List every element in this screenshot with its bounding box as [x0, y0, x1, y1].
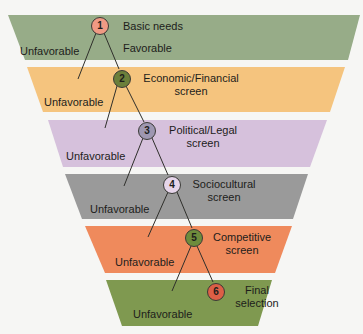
stage-5-label-line1: Competitive	[207, 231, 277, 244]
stage-2-node: 2	[113, 70, 131, 88]
stage-3-unfavorable-label: Unfavorable	[66, 150, 125, 163]
stage-6-label-line1: Final	[232, 284, 282, 297]
stage-1-favorable-label: Favorable	[123, 42, 172, 55]
stage-2-unfavorable-label: Unfavorable	[44, 96, 103, 109]
stage-3-label-line2: screen	[163, 137, 243, 150]
stage-1-node: 1	[91, 17, 109, 35]
stage-6-label: Final selection	[232, 284, 282, 310]
stage-4-node: 4	[163, 176, 181, 194]
stage-1-label: Basic needs	[123, 20, 183, 33]
stage-3-node: 3	[138, 122, 156, 140]
stage-6-node: 6	[207, 283, 225, 301]
stage-4-label-line2: screen	[184, 191, 264, 204]
stage-5-label: Competitive screen	[207, 231, 277, 257]
stage-2-label-line2: screen	[141, 85, 241, 98]
stage-6-label-line2: selection	[232, 297, 282, 310]
stage-3-label-line1: Political/Legal	[163, 124, 243, 137]
stage-6-unfavorable-label: Unfavorable	[133, 308, 192, 321]
stage-4-label: Sociocultural screen	[184, 178, 264, 204]
stage-4-unfavorable-label: Unfavorable	[90, 203, 149, 216]
stage-4-label-line1: Sociocultural	[184, 178, 264, 191]
stage-5-node: 5	[185, 229, 203, 247]
stage-5-unfavorable-label: Unfavorable	[115, 256, 174, 269]
stage-5-label-line2: screen	[207, 244, 277, 257]
stage-1-unfavorable-label: Unfavorable	[20, 45, 79, 58]
stage-2-label: Economic/Financial screen	[141, 72, 241, 98]
stage-3-label: Political/Legal screen	[163, 124, 243, 150]
stage-2-label-line1: Economic/Financial	[141, 72, 241, 85]
